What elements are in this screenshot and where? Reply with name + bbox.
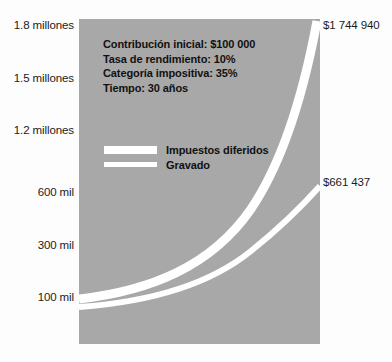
endpoint-value-impuestos-diferidos: $1 744 940 (323, 19, 380, 31)
info-line-tasa-rendimiento: Tasa de rendimiento: 10% (103, 52, 255, 67)
y-axis-tick-label: 1.8 millones (0, 19, 74, 31)
endpoint-value-gravado: $661 437 (323, 176, 370, 188)
info-line-categoria-impositiva: Categoría impositiva: 35% (103, 66, 255, 81)
plot-area: Contribución inicial: $100 000 Tasa de r… (79, 19, 320, 344)
legend-item-gravado: Gravado (104, 157, 269, 172)
legend-label: Impuestos diferidos (166, 144, 269, 156)
y-axis-tick-label: 300 mil (0, 239, 74, 251)
info-line-tiempo: Tiempo: 30 años (103, 81, 255, 96)
legend-item-impuestos-diferidos: Impuestos diferidos (104, 142, 269, 157)
legend-swatch-icon (104, 146, 157, 154)
info-line-contribucion-inicial: Contribución inicial: $100 000 (103, 37, 255, 52)
chart-info-block: Contribución inicial: $100 000 Tasa de r… (103, 37, 255, 95)
y-axis-tick-label: 600 mil (0, 186, 74, 198)
y-axis-tick-label: 1.2 millones (0, 124, 74, 136)
legend-label: Gravado (166, 159, 210, 171)
chart-legend: Impuestos diferidos Gravado (104, 142, 269, 172)
y-axis-tick-label: 1.5 millones (0, 72, 74, 84)
chart-container: 1.8 millones 1.5 millones 1.2 millones 6… (0, 0, 392, 362)
legend-swatch-icon (104, 162, 157, 167)
y-axis-tick-label: 100 mil (0, 291, 74, 303)
